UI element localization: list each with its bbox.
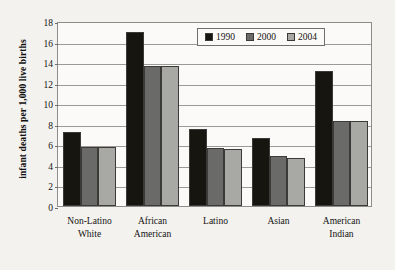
bar-group: AmericanIndian — [310, 23, 373, 206]
bar-1990 — [315, 71, 333, 206]
y-axis-tick-label: 16 — [44, 39, 54, 49]
x-axis-tick-label-line: Latino — [203, 215, 228, 228]
x-axis-tick-label: Non-LatinoWhite — [67, 215, 111, 240]
bar-1990 — [126, 32, 144, 206]
bar-2000 — [270, 156, 288, 206]
y-axis-tick-label: 18 — [44, 18, 54, 28]
legend-label: 2000 — [257, 32, 276, 42]
legend-label: 2004 — [298, 32, 317, 42]
bar-group: Non-LatinoWhite — [58, 23, 121, 206]
legend-swatch-icon — [246, 33, 254, 41]
legend-item-2000: 2000 — [246, 32, 276, 42]
legend-swatch-icon — [287, 33, 295, 41]
legend-item-1990: 1990 — [205, 32, 235, 42]
gridline: 0 — [58, 208, 371, 209]
bar-group: AfricanAmerican — [121, 23, 184, 206]
legend-item-2004: 2004 — [287, 32, 317, 42]
plot-area: 024681012141618 Non-LatinoWhiteAfricanAm… — [57, 22, 372, 207]
chart-figure: infant deaths per 1,000 live births 0246… — [0, 0, 395, 270]
y-axis-tick-label: 0 — [48, 203, 53, 213]
legend-label: 1990 — [216, 32, 235, 42]
bar-2004 — [224, 149, 242, 206]
x-axis-tick-label-line: American — [134, 228, 171, 241]
x-axis-tick-label-line: White — [67, 228, 111, 241]
bar-2000 — [81, 147, 99, 206]
x-axis-tick-label-line: Non-Latino — [67, 215, 111, 228]
x-axis-tick-label-line: African — [134, 215, 171, 228]
bar-2004 — [98, 147, 116, 206]
bar-group: Asian — [247, 23, 310, 206]
y-axis-title: infant deaths per 1,000 live births — [18, 14, 28, 204]
bar-2000 — [333, 121, 351, 206]
y-axis-tick-label: 6 — [48, 141, 53, 151]
legend-swatch-icon — [205, 33, 213, 41]
bar-2000 — [207, 148, 225, 206]
x-axis-tick-label: AmericanIndian — [323, 215, 360, 240]
x-axis-tick-label: AfricanAmerican — [134, 215, 171, 240]
bar-1990 — [189, 129, 207, 206]
bar-2004 — [161, 66, 179, 206]
x-axis-tick-label: Latino — [203, 215, 228, 228]
chart-legend: 199020002004 — [197, 28, 325, 46]
x-axis-tick-label-line: Asian — [267, 215, 289, 228]
y-axis-tick-label: 10 — [44, 100, 54, 110]
x-axis-tick-label-line: American — [323, 215, 360, 228]
bar-2004 — [287, 158, 305, 206]
y-axis-tick-label: 12 — [44, 80, 54, 90]
x-axis-tick-label: Asian — [267, 215, 289, 228]
y-axis-tick-label: 8 — [48, 121, 53, 131]
y-axis-tick-label: 14 — [44, 59, 54, 69]
y-axis-tick-mark — [55, 208, 58, 209]
bar-2000 — [144, 66, 162, 206]
bar-1990 — [252, 138, 270, 206]
y-axis-tick-label: 4 — [48, 162, 53, 172]
bar-2004 — [350, 121, 368, 206]
bar-group: Latino — [184, 23, 247, 206]
bar-1990 — [63, 132, 81, 206]
x-axis-tick-label-line: Indian — [323, 228, 360, 241]
bar-series-container: Non-LatinoWhiteAfricanAmericanLatinoAsia… — [58, 23, 371, 206]
y-axis-tick-label: 2 — [48, 182, 53, 192]
